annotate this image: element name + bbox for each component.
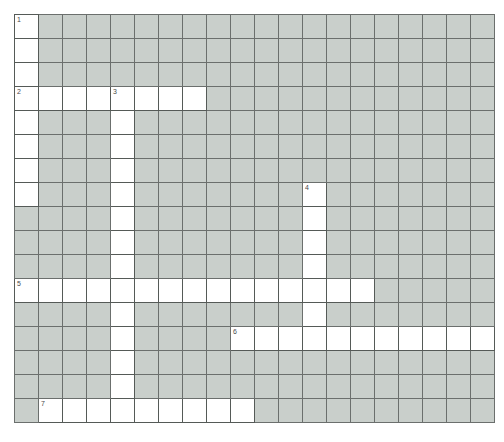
crossword-cell-open[interactable] (111, 303, 135, 327)
crossword-cell-open[interactable] (231, 279, 255, 303)
crossword-cell-open[interactable] (135, 399, 159, 423)
crossword-cell-blocked (279, 159, 303, 183)
crossword-cell-open[interactable] (255, 327, 279, 351)
crossword-cell-open[interactable] (159, 87, 183, 111)
crossword-puzzle: 1234567 (0, 0, 504, 442)
crossword-cell-open[interactable] (231, 399, 255, 423)
crossword-cell-blocked (231, 39, 255, 63)
crossword-cell-open[interactable] (135, 87, 159, 111)
crossword-cell-open[interactable] (87, 279, 111, 303)
crossword-cell-open[interactable]: 7 (39, 399, 63, 423)
crossword-cell-open[interactable] (303, 327, 327, 351)
crossword-cell-open[interactable] (111, 279, 135, 303)
crossword-cell-open[interactable] (351, 327, 375, 351)
crossword-cell-open[interactable] (63, 399, 87, 423)
crossword-cell-blocked (183, 135, 207, 159)
crossword-cell-open[interactable] (279, 279, 303, 303)
crossword-cell-open[interactable]: 4 (303, 183, 327, 207)
crossword-cell-open[interactable] (87, 87, 111, 111)
crossword-cell-open[interactable] (15, 135, 39, 159)
crossword-cell-open[interactable] (111, 183, 135, 207)
crossword-cell-open[interactable] (87, 399, 111, 423)
crossword-cell-open[interactable] (159, 279, 183, 303)
crossword-cell-open[interactable] (303, 279, 327, 303)
crossword-cell-open[interactable] (399, 327, 423, 351)
crossword-cell-open[interactable] (111, 159, 135, 183)
crossword-cell-open[interactable] (39, 279, 63, 303)
crossword-cell-open[interactable] (447, 327, 471, 351)
crossword-cell-blocked (63, 39, 87, 63)
crossword-cell-blocked (471, 87, 495, 111)
crossword-cell-blocked (207, 327, 231, 351)
crossword-cell-open[interactable] (111, 327, 135, 351)
crossword-cell-open[interactable] (351, 279, 375, 303)
crossword-cell-open[interactable] (423, 327, 447, 351)
crossword-cell-open[interactable] (375, 327, 399, 351)
crossword-cell-blocked (159, 207, 183, 231)
crossword-cell-open[interactable] (15, 111, 39, 135)
crossword-cell-open[interactable] (183, 87, 207, 111)
crossword-cell-blocked (87, 183, 111, 207)
crossword-cell-open[interactable] (111, 231, 135, 255)
crossword-cell-open[interactable] (111, 111, 135, 135)
crossword-cell-blocked (39, 135, 63, 159)
crossword-cell-open[interactable] (111, 135, 135, 159)
crossword-cell-open[interactable] (327, 327, 351, 351)
clue-number: 6 (233, 327, 237, 336)
crossword-cell-open[interactable] (303, 207, 327, 231)
crossword-cell-open[interactable] (183, 399, 207, 423)
crossword-row (15, 255, 495, 279)
crossword-cell-blocked (159, 63, 183, 87)
crossword-cell-open[interactable] (159, 399, 183, 423)
crossword-cell-open[interactable] (303, 255, 327, 279)
crossword-cell-open[interactable] (111, 255, 135, 279)
clue-number: 4 (305, 183, 309, 192)
crossword-cell-blocked (15, 375, 39, 399)
crossword-cell-blocked (303, 63, 327, 87)
crossword-cell-blocked (327, 207, 351, 231)
crossword-cell-open[interactable] (15, 39, 39, 63)
crossword-cell-blocked (279, 63, 303, 87)
crossword-cell-blocked (255, 183, 279, 207)
crossword-cell-open[interactable] (303, 303, 327, 327)
crossword-cell-open[interactable] (327, 279, 351, 303)
crossword-cell-open[interactable] (63, 279, 87, 303)
crossword-cell-open[interactable] (255, 279, 279, 303)
crossword-cell-open[interactable]: 1 (15, 15, 39, 39)
crossword-cell-blocked (183, 303, 207, 327)
crossword-grid[interactable]: 1234567 (14, 14, 495, 423)
crossword-cell-open[interactable] (111, 399, 135, 423)
crossword-cell-open[interactable] (111, 351, 135, 375)
crossword-cell-open[interactable] (279, 327, 303, 351)
crossword-cell-open[interactable]: 3 (111, 87, 135, 111)
crossword-cell-blocked (255, 207, 279, 231)
crossword-cell-open[interactable]: 6 (231, 327, 255, 351)
crossword-cell-open[interactable] (207, 399, 231, 423)
crossword-grid-body: 1234567 (15, 15, 495, 423)
crossword-cell-open[interactable] (15, 159, 39, 183)
crossword-cell-open[interactable]: 5 (15, 279, 39, 303)
crossword-cell-blocked (327, 159, 351, 183)
crossword-cell-open[interactable] (207, 279, 231, 303)
crossword-cell-open[interactable] (111, 207, 135, 231)
crossword-cell-open[interactable]: 2 (15, 87, 39, 111)
crossword-cell-blocked (447, 279, 471, 303)
crossword-cell-open[interactable] (135, 279, 159, 303)
crossword-cell-blocked (135, 111, 159, 135)
crossword-cell-open[interactable] (39, 87, 63, 111)
crossword-cell-blocked (159, 111, 183, 135)
crossword-cell-open[interactable] (15, 63, 39, 87)
crossword-cell-blocked (135, 159, 159, 183)
crossword-cell-open[interactable] (471, 327, 495, 351)
crossword-cell-open[interactable] (183, 279, 207, 303)
crossword-cell-open[interactable] (63, 87, 87, 111)
crossword-cell-open[interactable] (15, 183, 39, 207)
clue-number: 1 (17, 15, 21, 24)
crossword-cell-blocked (39, 255, 63, 279)
crossword-cell-open[interactable] (111, 375, 135, 399)
crossword-cell-blocked (135, 231, 159, 255)
crossword-cell-open[interactable] (303, 231, 327, 255)
crossword-cell-blocked (87, 207, 111, 231)
crossword-cell-blocked (39, 327, 63, 351)
crossword-cell-blocked (231, 183, 255, 207)
